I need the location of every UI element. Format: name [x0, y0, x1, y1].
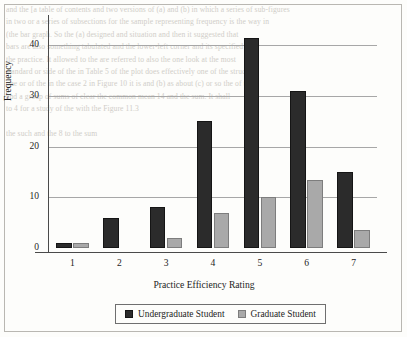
bar-graduate — [261, 197, 277, 248]
y-axis-tick-label: 10 — [5, 191, 39, 201]
x-axis-tick-label: 5 — [257, 257, 262, 268]
y-axis-tick-label: 30 — [5, 90, 39, 100]
legend-item-graduate: Graduate Student — [238, 309, 316, 319]
y-axis-tick-label: 0 — [5, 242, 39, 252]
bar-group — [330, 25, 377, 248]
y-axis-tick-label: 20 — [5, 141, 39, 151]
legend-item-undergraduate: Undergraduate Student — [125, 309, 225, 319]
bar-undergraduate — [150, 207, 166, 248]
legend-label-undergraduate: Undergraduate Student — [138, 309, 225, 319]
bar-group — [236, 25, 283, 248]
x-axis-tick-label: 2 — [117, 257, 122, 268]
bar-graduate — [354, 230, 370, 248]
bar-graduate — [167, 238, 183, 248]
bar-group — [143, 25, 190, 248]
y-axis-tick-label: 40 — [5, 39, 39, 49]
legend-swatch-icon-undergraduate — [125, 310, 133, 318]
bar-group — [49, 25, 96, 248]
bar-graduate — [73, 243, 89, 248]
bar-undergraduate — [197, 121, 213, 248]
bar-graduate — [214, 213, 230, 248]
legend-swatch-icon-graduate — [238, 310, 246, 318]
bar-undergraduate — [244, 38, 260, 248]
bar-graduate — [307, 180, 323, 248]
bar-group — [190, 25, 237, 248]
bar-group — [283, 25, 330, 248]
bar-undergraduate — [103, 218, 119, 248]
x-axis-tick-label: 3 — [164, 257, 169, 268]
chart-figure: Frequency Practice Efficiency Rating Und… — [4, 4, 402, 332]
x-axis-tick-label: 4 — [211, 257, 216, 268]
chart-legend: Undergraduate Student Graduate Student — [115, 304, 326, 324]
x-axis-label: Practice Efficiency Rating — [5, 279, 403, 290]
plot-area — [49, 25, 377, 248]
x-axis-tick-label: 1 — [70, 257, 75, 268]
legend-label-graduate: Graduate Student — [251, 309, 316, 319]
bar-undergraduate — [56, 243, 72, 248]
x-axis-tick-label: 7 — [351, 257, 356, 268]
x-axis-line — [35, 252, 387, 253]
bar-undergraduate — [337, 172, 353, 248]
bar-undergraduate — [290, 91, 306, 248]
x-axis-tick-label: 6 — [304, 257, 309, 268]
bar-group — [96, 25, 143, 248]
